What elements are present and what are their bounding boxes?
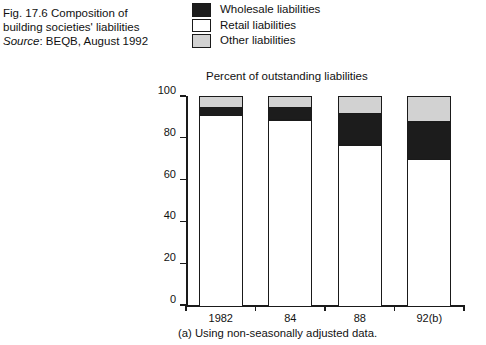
y-axis-tick-label: 80 xyxy=(150,126,176,138)
y-axis-tick xyxy=(180,221,186,222)
x-axis-tick xyxy=(394,305,395,311)
y-axis-tick xyxy=(180,137,186,138)
y-axis-tick xyxy=(180,263,186,264)
x-axis-tick xyxy=(255,305,256,311)
y-axis-tick-label-wrap: 60 xyxy=(150,174,176,186)
y-axis-tick-label-wrap: 100 xyxy=(150,90,176,102)
y-axis-tick xyxy=(180,95,186,96)
bar-segment-divider xyxy=(200,107,242,108)
bar-segment-retail xyxy=(339,145,381,306)
bar-segment-divider xyxy=(200,115,242,116)
y-axis-tick-label: 0 xyxy=(150,293,176,305)
x-axis-category-label: 88 xyxy=(354,312,366,324)
x-axis-category-label: 92(b) xyxy=(416,312,442,324)
y-axis-line xyxy=(186,96,188,306)
bar-column[interactable] xyxy=(199,96,243,305)
bar-segment-wholesale xyxy=(269,107,311,120)
bar-segment-divider xyxy=(339,144,381,145)
bar-segment-retail xyxy=(200,116,242,306)
y-axis-tick-label-wrap: 20 xyxy=(150,257,176,269)
y-axis-tick xyxy=(180,179,186,180)
y-axis-tick-label: 100 xyxy=(150,84,176,96)
bar-segment-retail xyxy=(269,120,311,306)
y-axis-tick-label-wrap: 0 xyxy=(150,299,176,311)
bar-segment-wholesale xyxy=(408,122,450,160)
bar-segment-other xyxy=(408,97,450,122)
y-axis-tick-label-wrap: 40 xyxy=(150,215,176,227)
bar-segment-wholesale xyxy=(339,114,381,145)
x-axis-tick xyxy=(324,305,325,311)
y-axis-tick-label: 20 xyxy=(150,251,176,263)
bar-segment-divider xyxy=(408,121,450,122)
chart-axis-title: Percent of outstanding liabilities xyxy=(206,70,368,82)
bar-segment-other xyxy=(339,97,381,114)
x-axis-category-label: 84 xyxy=(284,312,296,324)
y-axis-tick-label: 60 xyxy=(150,168,176,180)
bar-segment-divider xyxy=(269,119,311,120)
x-axis-tick xyxy=(185,305,186,311)
y-axis-tick-label: 40 xyxy=(150,209,176,221)
bar-segment-divider xyxy=(408,159,450,160)
y-axis-tick-label-wrap: 80 xyxy=(150,132,176,144)
bar-segment-divider xyxy=(269,107,311,108)
chart-plot-area: Percent of outstanding liabilities 02040… xyxy=(0,0,486,345)
bar-segment-divider xyxy=(339,113,381,114)
bar-column[interactable] xyxy=(407,96,451,305)
x-axis-category-label: 1982 xyxy=(209,312,233,324)
x-axis-tick xyxy=(463,305,464,311)
bar-column[interactable] xyxy=(268,96,312,305)
bar-column[interactable] xyxy=(338,96,382,305)
figure-root: Fig. 17.6 Composition of building societ… xyxy=(0,0,486,345)
bar-segment-retail xyxy=(408,160,450,306)
chart-footnote: (a) Using non-seasonally adjusted data. xyxy=(178,327,377,339)
